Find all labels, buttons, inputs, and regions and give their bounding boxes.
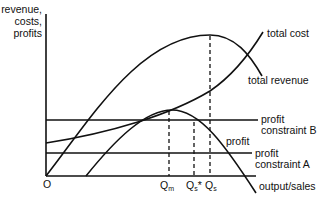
total-cost-curve bbox=[46, 32, 263, 143]
y-axis-label: revenue, costs, profits bbox=[0, 3, 42, 39]
y-label-line-1: revenue, bbox=[0, 3, 42, 15]
profit-curve-label: profit bbox=[226, 136, 249, 147]
total-cost-label: total cost bbox=[267, 28, 309, 39]
qs-star-tick-label: Qs* bbox=[186, 180, 202, 194]
profit-constraint-b-label: profit constraint B bbox=[261, 114, 316, 136]
qs-tick-label: Qs bbox=[205, 180, 217, 194]
constraint-a-line2: constraint A bbox=[255, 159, 310, 170]
y-label-line-3: profits bbox=[0, 27, 42, 39]
x-axis-label: output/sales bbox=[259, 181, 316, 192]
profit-constraint-a-label: profit constraint A bbox=[255, 148, 310, 170]
qm-tick-label: Qm bbox=[160, 180, 174, 194]
total-revenue-label: total revenue bbox=[248, 75, 309, 86]
constraint-b-line2: constraint B bbox=[261, 125, 316, 136]
y-label-line-2: costs, bbox=[0, 15, 42, 27]
origin-label: O bbox=[43, 179, 51, 190]
